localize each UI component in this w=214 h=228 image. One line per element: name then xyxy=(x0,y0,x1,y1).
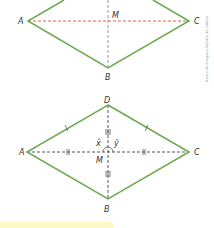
center-label-m: M xyxy=(96,156,103,165)
vertex-label-a: A xyxy=(17,17,23,26)
highlight-bar xyxy=(0,222,113,228)
half-diagonal-marks xyxy=(67,130,145,176)
vertex-label-a: A xyxy=(18,148,24,157)
vertex-label-c: C xyxy=(194,148,200,157)
image-credit: Banco de imagens/Arquivo da editora xyxy=(204,2,212,82)
vertex-label-b: B xyxy=(105,73,111,82)
rhombus-figure-1: A M C B xyxy=(17,0,200,82)
center-label-m: M xyxy=(112,11,119,20)
vertex-label-c: C xyxy=(194,17,200,26)
rhombus-diagrams: A M C B A D C B M x̂ ŷ xyxy=(0,0,214,228)
angle-label-y: ŷ xyxy=(113,139,119,148)
angle-label-x: x̂ xyxy=(95,138,101,148)
vertex-label-d: D xyxy=(104,96,110,105)
vertex-label-b: B xyxy=(104,205,110,214)
rhombus-figure-2: A D C B M x̂ ŷ xyxy=(18,96,200,214)
